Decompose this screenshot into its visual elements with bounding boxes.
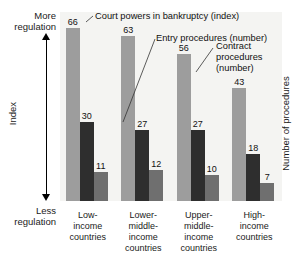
bar-value-label: 12 (151, 159, 161, 169)
bar-fill (260, 183, 274, 201)
bar-series-0[interactable]: 43 (232, 88, 246, 201)
chart-root: More regulation Less regulation Index Nu… (0, 0, 308, 268)
bar-fill (246, 154, 260, 201)
series-label-contract-procedures: Contract procedures (number) (216, 41, 278, 74)
bar-fill (191, 130, 205, 201)
bar-series-2[interactable]: 11 (94, 172, 108, 201)
bar-series-1[interactable]: 18 (246, 154, 260, 201)
series-label-court-powers: Court powers in bankruptcy (index) (95, 11, 239, 22)
bar-value-label: 10 (207, 164, 217, 174)
bar-value-label: 7 (265, 172, 270, 182)
bar-series-0[interactable]: 56 (177, 54, 191, 201)
bar-value-label: 66 (68, 17, 78, 27)
bar-value-label: 56 (179, 43, 189, 53)
bar-value-label: 27 (137, 119, 147, 129)
less-regulation-line2: regulation (0, 216, 56, 227)
bar-series-2[interactable]: 7 (260, 183, 274, 201)
bar-fill (205, 175, 219, 201)
bar-fill (177, 54, 191, 201)
bar-series-1[interactable]: 30 (80, 122, 94, 201)
cat-line: income (171, 232, 227, 243)
regulation-arrow-icon (41, 33, 53, 201)
bar-value-label: 11 (96, 161, 105, 171)
bar-fill (121, 36, 135, 201)
bar-fill (149, 170, 163, 202)
less-regulation-line1: Less (0, 205, 56, 216)
cat-line: countries (60, 232, 116, 243)
cat-line: High- (227, 210, 283, 221)
bar-fill (232, 88, 246, 201)
arrow-down-head-icon (42, 194, 50, 201)
bar-fill (135, 130, 149, 201)
left-axis: More regulation Less regulation Index (0, 0, 58, 268)
cat-line: income (227, 221, 283, 232)
category-label: Low- income countries (60, 210, 116, 266)
category-label: Upper- middle- income countries (171, 210, 227, 266)
cat-line: Lower- (116, 210, 172, 221)
cat-line: income (60, 221, 116, 232)
bar-fill (80, 122, 94, 201)
bar-series-2[interactable]: 10 (205, 175, 219, 201)
bar-value-label: 30 (82, 111, 92, 121)
y-axis-title-left: Index (7, 84, 18, 144)
bars: 66 30 11 (66, 12, 110, 201)
cat-line: Low- (60, 210, 116, 221)
bar-value-label: 63 (123, 25, 133, 35)
category-labels: Low- income countries Lower- middle- inc… (60, 210, 282, 266)
more-regulation-label: More regulation (0, 10, 56, 32)
contract-line3: (number) (216, 63, 278, 74)
cat-line: income (116, 232, 172, 243)
contract-line1: Contract (216, 41, 278, 52)
cat-line: countries (116, 243, 172, 254)
category-label: High- income countries (227, 210, 283, 266)
cat-line: middle- (171, 221, 227, 232)
bar-series-0[interactable]: 63 (121, 36, 135, 201)
cat-line: countries (171, 243, 227, 254)
bar-series-1[interactable]: 27 (191, 130, 205, 201)
bar-series-0[interactable]: 66 (66, 28, 80, 201)
bar-value-label: 18 (248, 143, 258, 153)
bar-fill (94, 172, 108, 201)
cat-line: middle- (116, 221, 172, 232)
category-label: Lower- middle- income countries (116, 210, 172, 266)
cat-line: Upper- (171, 210, 227, 221)
cat-line: countries (227, 232, 283, 243)
more-regulation-line1: More (0, 10, 56, 21)
more-regulation-line2: regulation (0, 21, 56, 32)
less-regulation-label: Less regulation (0, 205, 56, 227)
bar-value-label: 43 (234, 77, 244, 87)
bar-value-label: 27 (193, 119, 203, 129)
bar-series-2[interactable]: 12 (149, 170, 163, 202)
bar-series-1[interactable]: 27 (135, 130, 149, 201)
bar-fill (66, 28, 80, 201)
bar-group: 66 30 11 (60, 12, 116, 201)
contract-line2: procedures (216, 52, 278, 63)
arrow-shaft (46, 39, 47, 195)
